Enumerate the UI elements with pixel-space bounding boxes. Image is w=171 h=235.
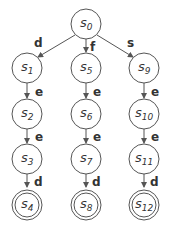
state-s1: s1: [12, 53, 42, 83]
state-s10: s10: [129, 99, 159, 129]
state-s9: s9: [129, 53, 159, 83]
edge-label-d: d: [34, 175, 43, 189]
edge-label-d: d: [92, 175, 101, 189]
state-s2: s2: [12, 99, 42, 129]
state-s6: s6: [71, 99, 101, 129]
edge-label-e: e: [93, 130, 101, 144]
edge-label-d: d: [34, 36, 43, 50]
state-s11: s11: [129, 144, 159, 174]
edge-label-d: d: [150, 175, 159, 189]
state-s7: s7: [71, 144, 101, 174]
state-s8-accepting: s8: [71, 190, 101, 220]
edge-label-e: e: [93, 85, 101, 99]
state-s12-accepting: s12: [129, 190, 159, 220]
edge-label-e: e: [151, 130, 159, 144]
edge-label-s: s: [127, 36, 134, 50]
edge-s0-s1: [38, 35, 75, 57]
state-s3: s3: [12, 144, 42, 174]
edge-label-e: e: [35, 130, 43, 144]
state-s0: s0: [71, 9, 101, 39]
edge-label-f: f: [90, 40, 96, 54]
state-diagram: d f s e e d e e d e e d s0 s1 s2 s3 s4 s…: [0, 0, 171, 235]
edge-label-e: e: [151, 85, 159, 99]
edge-label-e: e: [35, 85, 43, 99]
state-s5: s5: [71, 53, 101, 83]
state-s4-accepting: s4: [12, 190, 42, 220]
